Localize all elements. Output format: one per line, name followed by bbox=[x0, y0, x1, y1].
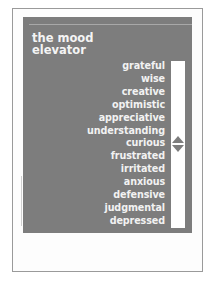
up-down-arrow-icon bbox=[172, 136, 184, 152]
mood-word: grateful bbox=[87, 60, 165, 73]
title-line-2: elevator bbox=[32, 44, 94, 56]
mood-word: irritated bbox=[87, 163, 165, 176]
mood-word: curious bbox=[87, 137, 165, 150]
side-margin-mark bbox=[21, 176, 22, 226]
panel-title: the mood elevator bbox=[32, 32, 94, 56]
mood-word: wise bbox=[87, 73, 165, 86]
mood-word: appreciative bbox=[87, 112, 165, 125]
mood-word: understanding bbox=[87, 125, 165, 138]
mood-word: anxious bbox=[87, 176, 165, 189]
mood-word: frustrated bbox=[87, 150, 165, 163]
top-rule bbox=[29, 24, 192, 25]
mood-word: depressed bbox=[87, 215, 165, 228]
mood-word: judgmental bbox=[87, 202, 165, 215]
mood-word: creative bbox=[87, 86, 165, 99]
mood-elevator-panel: the mood elevator grateful wise creative… bbox=[23, 17, 192, 233]
mood-word: defensive bbox=[87, 189, 165, 202]
mood-word: optimistic bbox=[87, 99, 165, 112]
mood-word-list: grateful wise creative optimistic apprec… bbox=[87, 60, 165, 228]
